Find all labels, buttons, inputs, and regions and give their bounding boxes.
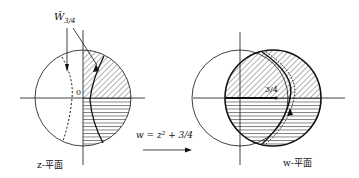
z-plane-label: z-平面	[37, 158, 63, 171]
curve-label: W̃3/4	[54, 11, 76, 25]
z-plane-figure	[20, 28, 145, 165]
diagram-canvas	[0, 0, 359, 178]
mapping-formula: w = z² + 3/4	[136, 130, 193, 140]
w-plane-label: w-平面	[283, 156, 312, 169]
mapping-arrow	[143, 148, 192, 153]
arrowhead-icon	[65, 64, 69, 72]
origin-label: 0	[76, 88, 81, 97]
w-plane-figure	[192, 32, 345, 165]
point-3-4	[275, 97, 278, 100]
point-label: 3/4	[265, 85, 278, 94]
arrow-right-icon	[185, 148, 192, 153]
